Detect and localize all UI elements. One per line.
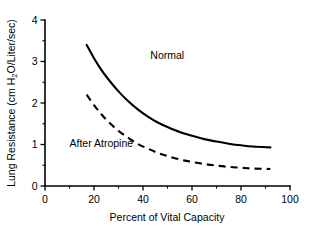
x-tick-label-20: 20 [88,193,100,205]
chart-axes [45,20,290,186]
x-tick-label-40: 40 [137,193,149,205]
lung-resistance-line-chart: 02040608010001234 Normal After Atropine … [0,0,309,226]
chart-figure: 02040608010001234 Normal After Atropine … [0,0,309,226]
y-axis-title: Lung Resistance (cm H2O/Liter/sec) [5,19,19,187]
y-axis-title-suffix: O/Liter/sec) [5,19,17,73]
y-tick-label-0: 0 [32,180,38,192]
x-tick-label-80: 80 [235,193,247,205]
y-tick-label-4: 4 [32,14,38,26]
axis-tick-labels: 02040608010001234 [32,14,299,205]
x-tick-label-60: 60 [186,193,198,205]
series-label-normal: Normal [150,49,184,61]
y-tick-label-2: 2 [32,97,38,109]
y-axis-title-prefix: Lung Resistance (cm H [5,78,17,187]
series-label-after-atropine: After Atropine [70,137,134,149]
x-axis-title: Percent of Vital Capacity [110,211,226,223]
axis-frame [45,20,290,186]
data-series [87,45,271,169]
y-tick-label-1: 1 [32,138,38,150]
y-tick-label-3: 3 [32,55,38,67]
x-tick-label-0: 0 [42,193,48,205]
axis-ticks [41,20,291,191]
x-tick-label-100: 100 [281,193,299,205]
